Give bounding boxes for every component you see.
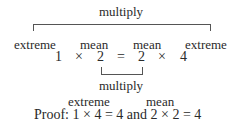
- top-multiply-label: multiply: [99, 5, 143, 18]
- bottom-multiply-label: multiply: [99, 79, 143, 92]
- equation-term-1: 1: [55, 50, 62, 64]
- term-label-extreme-1: extreme: [14, 38, 56, 51]
- term-label-extreme-2: extreme: [185, 38, 227, 51]
- equation-term-4: 4: [180, 50, 187, 64]
- top-bracket: [33, 24, 211, 31]
- bottom-bracket: [101, 67, 143, 75]
- equation-times-2: ×: [158, 50, 166, 64]
- equation-equals: =: [117, 50, 125, 64]
- proof-text: Proof: 1 × 4 = 4 and 2 × 2 = 4: [34, 108, 201, 122]
- equation-times-1: ×: [75, 50, 83, 64]
- equation-term-3: 2: [138, 50, 145, 64]
- equation-term-2: 2: [97, 50, 104, 64]
